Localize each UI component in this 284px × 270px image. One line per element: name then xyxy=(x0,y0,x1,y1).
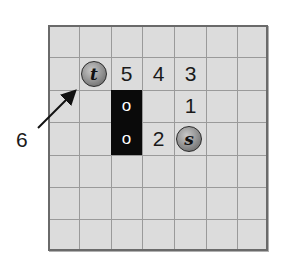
target-node: t xyxy=(81,61,107,87)
grid-line xyxy=(50,155,266,156)
start-node: s xyxy=(176,126,202,152)
grid-line xyxy=(50,187,266,188)
start-node-label: s xyxy=(184,129,194,149)
grid-line xyxy=(237,27,238,249)
distance-label-1: 1 xyxy=(175,90,206,122)
distance-label-5: 5 xyxy=(111,58,142,90)
distance-label-3: 3 xyxy=(175,58,206,90)
grid-line xyxy=(50,90,266,91)
distance-label-4: 4 xyxy=(143,58,174,90)
target-node-label: t xyxy=(90,64,98,84)
obstacle-label: o xyxy=(111,90,142,122)
grid-line xyxy=(50,219,266,220)
distance-label-2: 2 xyxy=(143,123,174,155)
obstacle-label: o xyxy=(111,123,142,155)
arrow-label: 6 xyxy=(16,128,28,152)
grid-line xyxy=(206,27,207,249)
grid-line xyxy=(79,27,80,249)
